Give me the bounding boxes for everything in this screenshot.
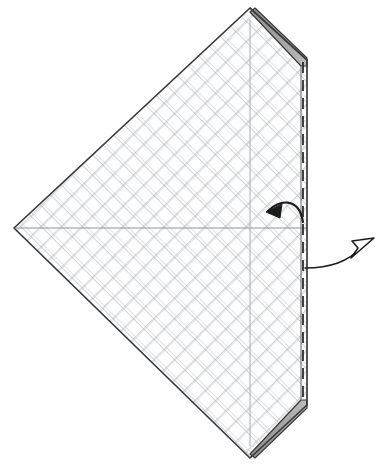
origami-diagram-canvas: Origami fold step diagram fold this edge… [0,0,387,465]
origami-figure: Origami fold step diagram fold this edge… [0,0,387,465]
